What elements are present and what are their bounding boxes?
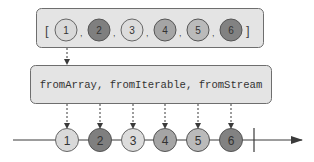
close-bracket: ] [246,23,250,38]
emission-4: 4 [154,129,177,152]
source-item-4: 4 [154,19,176,41]
separator: , [179,28,182,38]
separator: , [146,28,149,38]
emission-arrows [67,104,231,128]
emission-2: 2 [89,129,112,152]
emission-3: 3 [122,129,145,152]
emission-1: 1 [56,129,79,152]
svg-text:6: 6 [228,134,235,148]
source-array-box: [ ] 1 , 2 , 3 , 4 , 5 , 6 [37,9,264,48]
operator-box: fromArray, fromIterable, fromStream [31,66,272,104]
svg-text:2: 2 [97,134,104,148]
timeline: 1 2 3 4 5 6 [13,128,302,152]
source-item-6: 6 [220,19,242,41]
svg-text:4: 4 [162,134,169,148]
open-bracket: [ [45,23,49,38]
svg-text:6: 6 [228,25,234,36]
source-item-3: 3 [121,19,143,41]
operator-label: fromArray, fromIterable, fromStream [40,79,263,91]
separator: , [80,28,83,38]
svg-text:1: 1 [64,134,71,148]
source-item-2: 2 [88,19,110,41]
svg-text:2: 2 [96,25,102,36]
svg-text:3: 3 [129,25,135,36]
svg-text:5: 5 [195,25,201,36]
svg-text:4: 4 [162,25,168,36]
emission-6: 6 [220,129,243,152]
svg-text:1: 1 [63,25,69,36]
source-item-5: 5 [187,19,209,41]
separator: , [113,28,116,38]
svg-text:5: 5 [195,134,202,148]
separator: , [212,28,215,38]
marble-diagram: [ ] 1 , 2 , 3 , 4 , 5 , 6 [0,0,314,162]
emission-5: 5 [187,129,210,152]
svg-text:3: 3 [130,134,137,148]
source-item-1: 1 [55,19,77,41]
